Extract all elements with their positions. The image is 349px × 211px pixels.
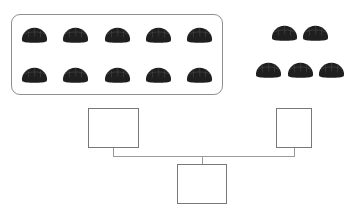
bread-roll-icon bbox=[287, 61, 314, 78]
bread-roll-icon bbox=[104, 66, 131, 83]
bread-roll-icon bbox=[62, 26, 89, 43]
bread-roll-icon bbox=[62, 66, 89, 83]
bread-roll-icon bbox=[186, 26, 213, 43]
left-branch-drop bbox=[113, 148, 114, 156]
total-drop bbox=[202, 156, 203, 164]
bread-roll-icon bbox=[255, 61, 282, 78]
bread-roll-icon bbox=[318, 61, 345, 78]
right-branch-drop bbox=[294, 148, 295, 156]
join-bar bbox=[113, 156, 295, 157]
bread-roll-icon bbox=[186, 66, 213, 83]
bread-roll-icon bbox=[145, 66, 172, 83]
bread-roll-icon bbox=[145, 26, 172, 43]
bread-roll-icon bbox=[21, 26, 48, 43]
bread-roll-icon bbox=[302, 24, 329, 41]
bread-roll-icon bbox=[21, 66, 48, 83]
bread-roll-icon bbox=[104, 26, 131, 43]
tens-value-box[interactable] bbox=[88, 108, 139, 148]
total-value-box[interactable] bbox=[177, 164, 227, 204]
ones-value-box[interactable] bbox=[276, 108, 312, 148]
worksheet-canvas bbox=[0, 0, 349, 211]
bread-roll-icon bbox=[271, 24, 298, 41]
